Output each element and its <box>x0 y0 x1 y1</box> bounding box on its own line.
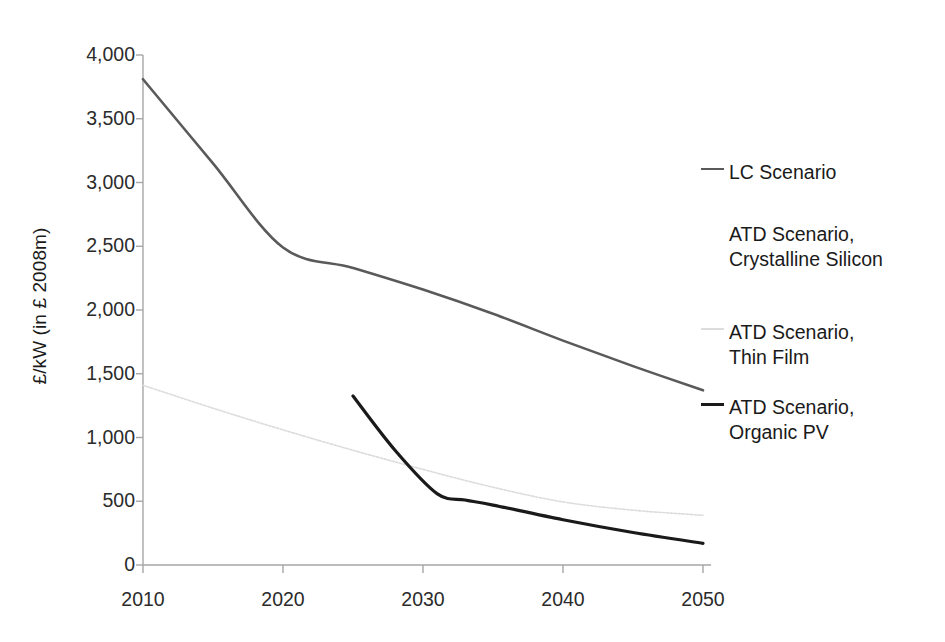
series-line-3 <box>353 396 703 543</box>
legend-swatch-line-icon <box>700 320 726 338</box>
legend-item-label: ATD Scenario, Crystalline Silicon <box>729 222 883 272</box>
legend-item[interactable]: ATD Scenario, Organic PV <box>700 395 854 445</box>
legend-swatch-line-icon <box>700 395 726 413</box>
legend-item-label: LC Scenario <box>729 160 836 185</box>
legend-swatch-line-icon <box>700 222 726 240</box>
legend-item[interactable]: LC Scenario <box>700 160 836 185</box>
axis-lines <box>143 55 711 565</box>
chart-container: £/kW (in £ 2008m) 4,0003,5003,0002,5002,… <box>0 0 945 642</box>
data-series-group <box>143 79 703 543</box>
legend-item[interactable]: ATD Scenario, Thin Film <box>700 320 854 370</box>
axis-tick-marks <box>136 55 703 573</box>
series-line-0 <box>143 79 703 390</box>
legend-item-label: ATD Scenario, Organic PV <box>729 395 854 445</box>
series-line-2 <box>143 385 703 515</box>
legend-item-label: ATD Scenario, Thin Film <box>729 320 854 370</box>
legend-item[interactable]: ATD Scenario, Crystalline Silicon <box>700 222 883 272</box>
legend-swatch-line-icon <box>700 160 726 178</box>
